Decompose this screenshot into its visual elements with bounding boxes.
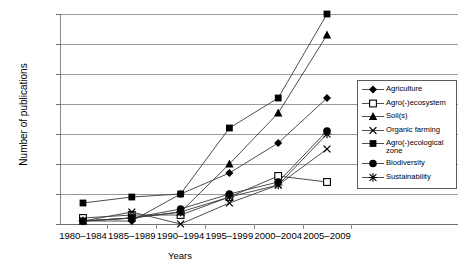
asterisk-marker-icon — [323, 130, 331, 138]
triangle-marker-icon — [369, 112, 377, 120]
circle-marker-icon — [369, 160, 377, 168]
open-square-marker-icon — [324, 179, 331, 186]
asterisk-marker-icon — [369, 173, 377, 181]
x-axis-title: Years — [0, 250, 360, 261]
square-marker-icon — [177, 191, 184, 198]
legend-item-label: Organic farming — [386, 125, 440, 134]
y-tick-0 — [56, 224, 61, 225]
series-line — [83, 14, 327, 203]
asterisk-marker-icon — [79, 217, 87, 225]
diamond-marker-icon — [225, 169, 233, 177]
y-axis-title: Number of publications — [18, 45, 29, 185]
series-agriculture — [79, 94, 331, 225]
filled-square-marker-icon — [360, 138, 386, 149]
square-marker-icon — [128, 194, 135, 201]
x-tick — [205, 224, 206, 229]
x-tick — [351, 224, 352, 229]
open-square-marker-icon — [370, 100, 377, 107]
series-soil-s — [79, 31, 331, 225]
x-tick-label: 2005–2009 — [301, 230, 353, 241]
asterisk-marker-icon — [176, 208, 184, 216]
x-marker-icon — [360, 125, 386, 136]
x-tick-label: 1990–1994 — [155, 230, 207, 241]
square-marker-icon — [80, 200, 87, 207]
diamond-marker-icon — [369, 86, 377, 94]
legend-item-label: Biodiversity — [386, 158, 425, 167]
triangle-marker-icon — [274, 109, 282, 117]
triangle-marker-icon — [323, 31, 331, 39]
x-tick-label: 1985–1989 — [106, 230, 158, 241]
chart-legend: AgricultureAgro(-)ecosystemSoil(s)Organi… — [357, 80, 457, 189]
x-tick — [254, 224, 255, 229]
legend-item-label: Sustainability — [386, 172, 431, 181]
legend-item[interactable]: Biodiversity — [360, 158, 454, 169]
legend-item[interactable]: Agro(-)ecosystem — [360, 98, 454, 109]
series-line — [83, 176, 327, 218]
filled-circle-marker-icon — [360, 158, 386, 169]
square-marker-icon — [275, 95, 282, 102]
legend-item-label: Soil(s) — [386, 111, 408, 120]
series-line — [83, 98, 327, 221]
asterisk-marker-icon — [128, 214, 136, 222]
legend-item[interactable]: Soil(s) — [360, 111, 454, 122]
series-agro-ecosystem — [80, 173, 331, 222]
triangle-marker-icon — [360, 111, 386, 122]
x-tick-label: 1980–1984 — [57, 230, 109, 241]
legend-item-label: Agro(-)ecological zone — [386, 138, 454, 156]
x-tick — [303, 224, 304, 229]
x-tick-label: 2000–2004 — [252, 230, 304, 241]
x-marker-icon — [324, 146, 331, 153]
square-marker-icon — [370, 140, 377, 147]
diamond-marker-icon — [360, 84, 386, 95]
legend-item-label: Agro(-)ecosystem — [386, 98, 446, 107]
asterisk-marker-icon — [225, 193, 233, 201]
gridline-0 — [61, 224, 458, 225]
series-line — [83, 35, 327, 221]
legend-item-label: Agriculture — [386, 84, 422, 93]
series-biodiversity — [79, 127, 331, 225]
legend-item[interactable]: Organic farming — [360, 125, 454, 136]
legend-item[interactable]: Sustainability — [360, 172, 454, 183]
series-agro-ecological-zone — [80, 11, 331, 207]
legend-item[interactable]: Agriculture — [360, 84, 454, 95]
asterisk-marker-icon — [360, 172, 386, 183]
publications-line-chart: Number of publications 010203040506070 1… — [0, 0, 460, 266]
square-marker-icon — [226, 125, 233, 132]
square-marker-icon — [324, 11, 331, 18]
legend-item[interactable]: Agro(-)ecological zone — [360, 138, 454, 156]
open-square-marker-icon — [360, 98, 386, 109]
x-tick — [107, 224, 108, 229]
x-tick — [156, 224, 157, 229]
asterisk-marker-icon — [274, 181, 282, 189]
series-organic-farming — [80, 146, 331, 228]
x-tick-label: 1995–1999 — [203, 230, 255, 241]
